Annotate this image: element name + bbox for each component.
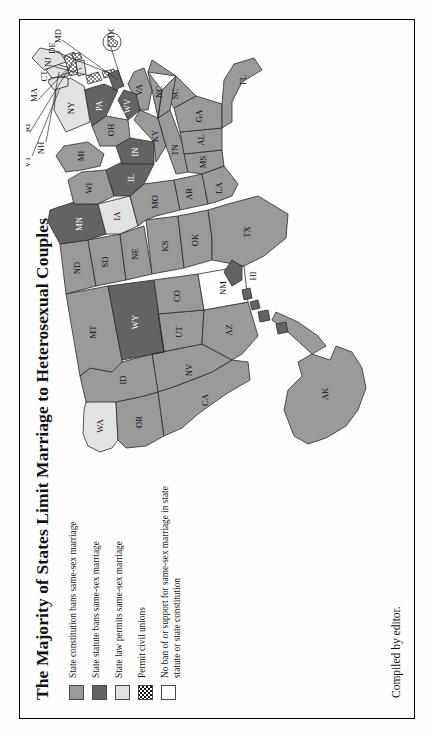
state-NJ[interactable] (86, 72, 102, 84)
map-label-FL: FL (237, 75, 247, 85)
map-label-WI: WI (83, 182, 93, 193)
map-label-AZ: AZ (223, 324, 233, 335)
map-label-WV: WV (121, 98, 131, 113)
map-callout-MD: MD (52, 29, 62, 43)
map-callout-NH: NH (35, 142, 45, 154)
map-callout-MA: MA (28, 87, 38, 102)
map-callout-CT: CT (38, 70, 48, 82)
map-label-AL: AL (195, 134, 205, 145)
legend-label-no-ban: No ban of or support for same-sex marria… (160, 473, 184, 678)
map-label-MT: MT (87, 325, 97, 339)
map-label-UT: UT (173, 326, 183, 338)
map-label-HI: HI (247, 271, 257, 280)
legend-item-constitution-ban: State constitution bans same-sex marriag… (68, 460, 84, 700)
map-label-IN: IN (129, 147, 139, 157)
map-legend: State constitution bans same-sex marriag… (68, 460, 191, 700)
map-callout-RI: RI (26, 124, 32, 133)
map-label-CO: CO (171, 290, 181, 302)
legend-label-civil-unions: Permit civil unions (137, 607, 149, 678)
legend-swatch-no-ban (161, 685, 176, 700)
map-label-NM: NM (217, 281, 227, 295)
map-label-NV: NV (183, 363, 193, 376)
map-label-OH: OH (105, 124, 115, 136)
map-label-NC: NC (153, 86, 163, 98)
state-HI-4[interactable] (258, 310, 270, 322)
state-FL[interactable] (222, 58, 262, 128)
state-HI-3[interactable] (250, 300, 260, 310)
map-label-AR: AR (183, 188, 193, 200)
map-label-NY: NY (65, 102, 75, 114)
map-label-WA: WA (94, 419, 104, 433)
map-label-SC: SC (169, 88, 179, 99)
legend-item-law-permits: State law permits same-sex marriage (114, 460, 130, 700)
map-callout-VT: VT (26, 156, 32, 168)
legend-item-no-ban: No ban of or support for same-sex marria… (160, 460, 184, 700)
map-label-LA: LA (213, 181, 223, 193)
legend-swatch-statute-ban (92, 685, 107, 700)
map-label-CA: CA (199, 393, 209, 406)
map-label-KY: KY (149, 130, 159, 142)
map-label-OR: OR (133, 416, 143, 428)
map-callout-DC: DC (105, 28, 115, 38)
legend-swatch-civil-unions (138, 685, 153, 700)
page-canvas: The Majority of States Limit Marriage to… (0, 0, 433, 738)
map-label-TX: TX (241, 225, 251, 237)
map-label-PA: PA (93, 100, 103, 111)
us-choropleth-map: WA OR CA NV ID MT WY UT AZ CO NM ND SD N… (26, 28, 410, 472)
legend-item-statute-ban: State statute bans same-sex marriage (91, 460, 107, 700)
legend-swatch-constitution-ban (69, 685, 84, 700)
legend-label-law-permits: State law permits same-sex marriage (114, 541, 126, 678)
map-label-IA: IA (111, 211, 121, 221)
map-label-NE: NE (129, 248, 139, 259)
figure-credit: Compiled by editor. (390, 606, 402, 698)
figure-inner: The Majority of States Limit Marriage to… (20, 20, 414, 718)
us-map-svg: WA OR CA NV ID MT WY UT AZ CO NM ND SD N… (26, 28, 410, 472)
map-callout-NJ: NJ (42, 57, 52, 67)
map-label-MO: MO (149, 195, 159, 209)
map-label-MN: MN (73, 216, 83, 231)
map-label-SD: SD (99, 257, 109, 268)
map-label-GA: GA (193, 109, 203, 122)
map-label-MI: MI (75, 151, 85, 162)
legend-item-civil-unions: Permit civil unions (137, 460, 153, 700)
legend-label-statute-ban: State statute bans same-sex marriage (91, 541, 103, 678)
legend-label-constitution-ban: State constitution bans same-sex marriag… (68, 522, 80, 678)
state-HI-5[interactable] (276, 322, 288, 334)
map-label-TN: TN (169, 143, 179, 155)
figure-frame: The Majority of States Limit Marriage to… (19, 19, 415, 719)
map-label-ID: ID (117, 375, 127, 384)
map-label-MS: MS (197, 156, 207, 169)
map-label-ND: ND (71, 262, 81, 274)
map-label-VA: VA (133, 84, 143, 96)
map-label-WY: WY (129, 315, 139, 329)
map-label-AK: AK (319, 387, 329, 400)
map-callout-DE: DE (46, 42, 56, 53)
map-label-OK: OK (189, 233, 199, 246)
map-label-KS: KS (159, 240, 169, 251)
map-label-IL: IL (125, 174, 135, 182)
legend-swatch-law-permits (115, 685, 130, 700)
